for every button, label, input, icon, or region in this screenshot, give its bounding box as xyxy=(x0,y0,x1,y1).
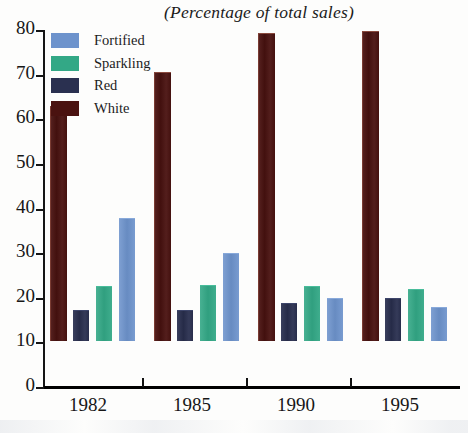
bar-chart: (Percentage of total sales) 807060504030… xyxy=(0,0,468,433)
x-axis-tick-label: 1995 xyxy=(381,395,419,414)
legend-item: Red xyxy=(51,76,201,99)
legend-label: Fortified xyxy=(94,31,145,50)
legend-item: Fortified xyxy=(51,31,201,54)
legend-label: Red xyxy=(94,76,117,95)
chart-legend: FortifiedSparklingRedWhite xyxy=(51,31,201,121)
x-axis-tick-label: 1985 xyxy=(173,395,211,414)
bar-fortified-1995 xyxy=(431,307,447,341)
x-axis-tick-label: 1982 xyxy=(69,395,107,414)
page-bleed-artifact xyxy=(0,420,468,433)
legend-label: White xyxy=(94,99,129,118)
legend-swatch-white xyxy=(51,101,79,116)
legend-swatch-fortified xyxy=(51,33,79,48)
bar-red-1995 xyxy=(385,298,401,341)
bar-white-1995 xyxy=(362,31,379,341)
legend-swatch-red xyxy=(51,78,79,93)
legend-label: Sparkling xyxy=(94,54,150,73)
y-axis-tick-mark xyxy=(36,387,44,389)
bar-sparkling-1995 xyxy=(408,289,424,341)
x-axis-tick-label: 1990 xyxy=(277,395,315,414)
legend-swatch-sparkling xyxy=(51,56,79,71)
legend-item: White xyxy=(51,99,201,122)
legend-item: Sparkling xyxy=(51,54,201,77)
